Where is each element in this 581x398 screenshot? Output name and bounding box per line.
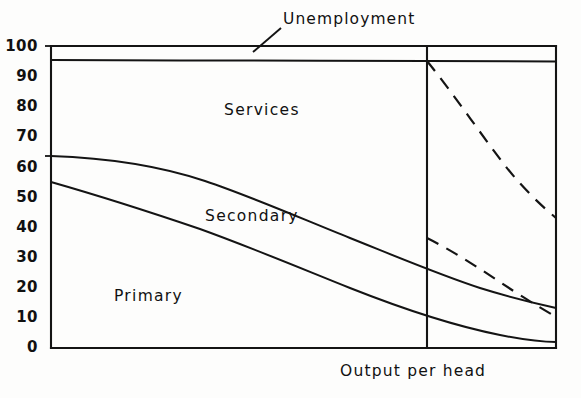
series-projected-services	[427, 61, 556, 218]
y-tick-label-90: 90	[4, 69, 38, 84]
y-tick-label-60: 60	[4, 160, 38, 175]
chart-plot-area	[0, 0, 581, 398]
annotation-services: Services	[224, 103, 300, 119]
series-services-boundary	[51, 156, 556, 308]
y-tick-label-80: 80	[4, 99, 38, 114]
series-unemployment-boundary	[51, 60, 556, 62]
y-tick-label-10: 10	[4, 310, 38, 325]
y-tick-label-40: 40	[4, 220, 38, 235]
y-tick-label-0: 0	[4, 340, 38, 355]
series-primary-boundary	[51, 182, 556, 342]
annotation-primary: Primary	[114, 289, 183, 305]
x-axis-title: Output per head	[340, 364, 486, 380]
series-projected-secondary	[427, 238, 556, 317]
y-tick-label-70: 70	[4, 129, 38, 144]
unemployment-leader-line	[253, 28, 281, 52]
annotation-secondary: Secondary	[205, 209, 299, 225]
sector-shares-chart: 100 90 80 70 60 50 40 30 20 10 0 Unemplo…	[0, 0, 581, 398]
y-tick-label-50: 50	[4, 190, 38, 205]
annotation-unemployment: Unemployment	[283, 12, 415, 28]
y-tick-label-30: 30	[4, 250, 38, 265]
y-tick-label-20: 20	[4, 280, 38, 295]
y-tick-label-100: 100	[4, 39, 38, 54]
